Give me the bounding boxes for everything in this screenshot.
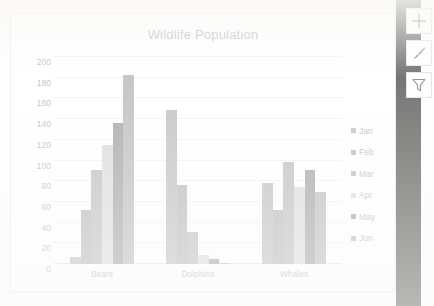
embedded-chart-object[interactable]: Wildlife Population 02040608010012014016… [10,13,396,292]
legend-item[interactable]: Apr [351,185,391,207]
bar[interactable] [166,110,177,264]
plot-area [54,57,342,264]
bar[interactable] [209,259,220,264]
chart-tool-buttons [406,8,432,104]
bar[interactable] [113,123,124,264]
bar[interactable] [70,257,81,264]
legend-swatch-icon [351,236,356,241]
chart-legend[interactable]: JanFebMarAprMayJun [351,120,391,249]
legend-item[interactable]: Feb [351,142,391,164]
y-axis: 020406080100120140160180200 [19,57,51,264]
bar[interactable] [219,263,230,264]
chart-title: Wildlife Population [11,27,395,42]
legend-item[interactable]: Jan [351,120,391,142]
bar[interactable] [294,187,305,264]
x-axis-category-label: Whales [280,269,308,279]
legend-label: Mar [359,169,374,179]
x-axis-category-label: Bears [91,269,113,279]
bar[interactable] [262,183,273,264]
chart-elements-button[interactable] [406,8,432,34]
legend-swatch-icon [351,193,356,198]
bar[interactable] [123,75,134,264]
bar[interactable] [81,210,92,264]
bar[interactable] [283,162,294,264]
bars-layer [54,57,342,264]
legend-item[interactable]: May [351,206,391,228]
bar[interactable] [102,145,113,264]
x-axis: BearsDolphinsWhales [54,269,342,285]
bar[interactable] [273,210,284,264]
legend-item[interactable]: Jun [351,228,391,250]
legend-swatch-icon [351,128,356,133]
bar[interactable] [315,192,326,264]
bar[interactable] [305,170,316,264]
legend-swatch-icon [351,171,356,176]
legend-label: Apr [359,190,372,200]
legend-swatch-icon [351,214,356,219]
chart-filters-button[interactable] [406,72,432,98]
legend-item[interactable]: Mar [351,163,391,185]
bar[interactable] [198,255,209,264]
bar[interactable] [91,170,102,264]
x-axis-category-label: Dolphins [181,269,214,279]
bar[interactable] [177,185,188,264]
legend-swatch-icon [351,150,356,155]
legend-label: Jun [359,233,373,243]
legend-label: Jan [359,126,373,136]
bar[interactable] [187,232,198,264]
chart-styles-button[interactable] [406,40,432,66]
legend-label: May [359,212,375,222]
legend-label: Feb [359,147,374,157]
